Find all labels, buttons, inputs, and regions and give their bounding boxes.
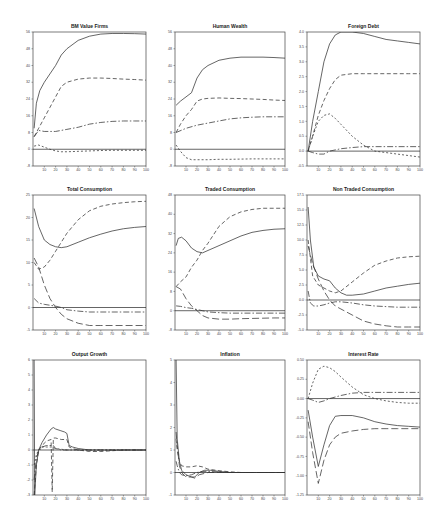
y-tick-label: 32 bbox=[168, 80, 172, 84]
x-tick-label: 10 bbox=[42, 332, 46, 336]
panel-inflation: Inflation543210-1102030405060708090100 bbox=[169, 351, 288, 501]
y-tick-label: -8 bbox=[169, 164, 172, 168]
y-tick-label: 40 bbox=[168, 212, 172, 216]
y-tick-label: 2 bbox=[170, 426, 172, 430]
series-line-short-dash bbox=[308, 114, 420, 157]
series-line-dash-dot bbox=[34, 121, 146, 137]
x-tick-label: 40 bbox=[350, 497, 354, 501]
series-line-solid bbox=[176, 360, 285, 477]
x-tick-label: 80 bbox=[261, 332, 265, 336]
x-tick-label: 50 bbox=[88, 497, 92, 501]
x-tick-label: 10 bbox=[42, 168, 46, 172]
panel-interest-rate: Interest Rate0.500.250.00-0.25-0.50-0.75… bbox=[296, 351, 423, 501]
y-tick-label: 48 bbox=[168, 47, 172, 51]
x-tick-label: 20 bbox=[328, 332, 332, 336]
y-tick-label: 40 bbox=[26, 64, 30, 68]
series-line-short-dash bbox=[308, 366, 420, 403]
panel-traded-consumption: Traded Consumption484032241680-810203040… bbox=[168, 186, 288, 336]
x-tick-label: 80 bbox=[395, 497, 399, 501]
panel-title: Output Growth bbox=[72, 351, 107, 357]
x-tick-label: 40 bbox=[217, 168, 221, 172]
y-tick-label: 10.0 bbox=[297, 238, 304, 242]
x-tick-label: 20 bbox=[54, 168, 58, 172]
y-tick-label: 1 bbox=[170, 448, 172, 452]
plot-frame bbox=[33, 360, 146, 495]
series-line-solid bbox=[308, 410, 420, 466]
y-tick-label: 8 bbox=[170, 131, 172, 135]
y-tick-label: -2 bbox=[27, 478, 30, 482]
y-tick-label: 48 bbox=[26, 47, 30, 51]
x-tick-label: 30 bbox=[65, 168, 69, 172]
x-tick-label: 10 bbox=[42, 497, 46, 501]
x-tick-label: 70 bbox=[250, 332, 254, 336]
x-tick-label: 10 bbox=[316, 497, 320, 501]
x-tick-label: 40 bbox=[76, 168, 80, 172]
x-tick-label: 90 bbox=[133, 332, 137, 336]
y-tick-label: -1.00 bbox=[296, 474, 304, 478]
y-tick-label: 0.00 bbox=[297, 397, 304, 401]
y-tick-label: 15 bbox=[26, 238, 30, 242]
y-tick-label: 5 bbox=[28, 373, 30, 377]
y-tick-label: 3 bbox=[28, 403, 30, 407]
y-tick-label: 3.5 bbox=[299, 45, 304, 49]
y-tick-label: 17.5 bbox=[297, 193, 304, 197]
panel-total-consumption: Total Consumption2520151050-510203040506… bbox=[26, 186, 149, 336]
series-line-dashed bbox=[308, 240, 420, 293]
series-line-dashed bbox=[34, 201, 146, 269]
series-line-dash-dot bbox=[308, 147, 420, 154]
x-tick-label: 80 bbox=[121, 168, 125, 172]
x-tick-label: 60 bbox=[239, 497, 243, 501]
y-tick-label: 4 bbox=[170, 381, 172, 385]
x-tick-label: 60 bbox=[239, 168, 243, 172]
x-tick-label: 30 bbox=[206, 168, 210, 172]
y-tick-label: 2 bbox=[28, 418, 30, 422]
y-tick-label: 24 bbox=[168, 251, 172, 255]
y-tick-label: 2.5 bbox=[299, 75, 304, 79]
y-tick-label: 48 bbox=[168, 193, 172, 197]
series-line-long-dash bbox=[308, 422, 420, 484]
series-line-long-dash bbox=[176, 287, 285, 320]
y-tick-label: 56 bbox=[168, 30, 172, 34]
y-tick-label: 8 bbox=[28, 131, 30, 135]
x-tick-label: 100 bbox=[417, 497, 423, 501]
series-line-dashed bbox=[34, 78, 146, 137]
y-tick-label: 5 bbox=[170, 358, 172, 362]
series-line-long-dash bbox=[176, 432, 285, 478]
x-tick-label: 50 bbox=[228, 168, 232, 172]
y-tick-label: -5.0 bbox=[298, 328, 304, 332]
x-tick-label: 80 bbox=[121, 497, 125, 501]
y-tick-label: 12.5 bbox=[297, 223, 304, 227]
y-tick-label: 0.0 bbox=[299, 149, 304, 153]
x-tick-label: 30 bbox=[65, 497, 69, 501]
x-tick-label: 80 bbox=[261, 497, 265, 501]
x-tick-label: 90 bbox=[272, 332, 276, 336]
x-tick-label: 90 bbox=[133, 168, 137, 172]
x-tick-label: 90 bbox=[133, 497, 137, 501]
y-tick-label: -0.25 bbox=[296, 416, 304, 420]
x-tick-label: 60 bbox=[373, 168, 377, 172]
x-tick-label: 80 bbox=[261, 168, 265, 172]
x-tick-label: 50 bbox=[362, 332, 366, 336]
panel-output-growth: Output Growth6543210-1-2-310203040506070… bbox=[27, 351, 149, 501]
x-tick-label: 40 bbox=[217, 497, 221, 501]
y-tick-label: 1.0 bbox=[299, 120, 304, 124]
panel-title: Human Wealth bbox=[213, 23, 248, 29]
series-line-short-dash bbox=[34, 145, 146, 152]
plot-frame bbox=[307, 195, 420, 330]
x-tick-label: 90 bbox=[272, 497, 276, 501]
x-tick-label: 10 bbox=[184, 168, 188, 172]
y-tick-label: -0.50 bbox=[296, 435, 304, 439]
plot-frame bbox=[307, 32, 420, 166]
y-tick-label: -8 bbox=[169, 328, 172, 332]
y-tick-label: -2.5 bbox=[298, 313, 304, 317]
y-tick-label: 0 bbox=[28, 448, 30, 452]
irf-figure: BM Value Firms56484032241680-81020304050… bbox=[0, 0, 441, 523]
series-line-dash-dot bbox=[34, 446, 146, 481]
series-line-solid bbox=[176, 229, 285, 253]
y-tick-label: 8 bbox=[170, 290, 172, 294]
y-tick-label: 0.0 bbox=[299, 298, 304, 302]
y-tick-label: 1.5 bbox=[299, 105, 304, 109]
panel-foreign-debt: Foreign Debt4.03.53.02.52.01.51.00.50.0-… bbox=[298, 23, 423, 172]
x-tick-label: 60 bbox=[239, 332, 243, 336]
y-tick-label: -1.25 bbox=[296, 493, 304, 497]
